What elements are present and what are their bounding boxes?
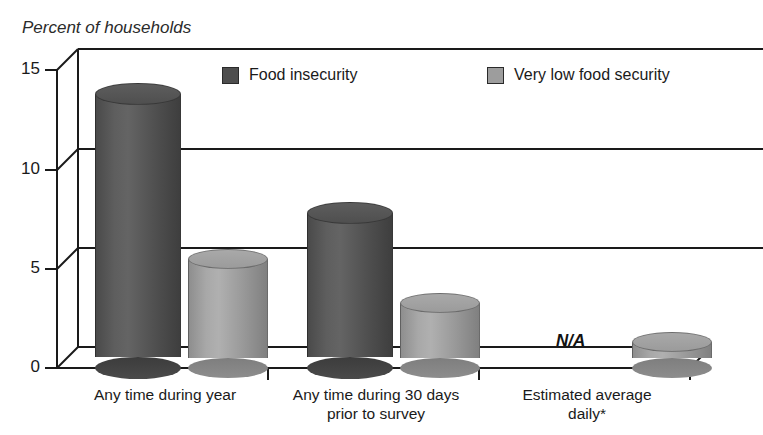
- plot-area: 15 10 5 0 N/A: [0, 0, 763, 435]
- bar-base: [632, 358, 712, 378]
- x-category-label-2-line1: Any time during 30 days: [272, 385, 480, 404]
- bar-base: [400, 358, 480, 378]
- bar-very-low-30-days: [400, 293, 480, 368]
- x-category-label-3: Estimated average daily*: [483, 385, 691, 424]
- x-category-label-3-line1: Estimated average: [483, 385, 691, 404]
- legend-item-food-insecurity: Food insecurity: [222, 66, 358, 84]
- x-category-label-1: Any time during year: [60, 385, 270, 404]
- chart-root: Percent of households: [0, 0, 763, 435]
- x-category-label-2-line2: prior to survey: [272, 404, 480, 423]
- y-tick-15: 15: [6, 59, 40, 79]
- bar-cap: [400, 293, 480, 313]
- y-tick-0: 0: [6, 357, 40, 377]
- x-category-label-2: Any time during 30 days prior to survey: [272, 385, 480, 424]
- bar-base: [95, 357, 181, 379]
- bar-cap: [307, 202, 393, 224]
- bar-base: [188, 358, 268, 378]
- bar-food-insecurity-any-time-year: [95, 83, 181, 368]
- bar-body: [307, 213, 393, 357]
- bar-very-low-estimated-daily: [632, 332, 712, 368]
- bar-cap: [632, 332, 712, 352]
- legend-item-very-low-food-security: Very low food security: [487, 66, 670, 84]
- bar-very-low-any-time-year: [188, 249, 268, 368]
- na-annotation: N/A: [556, 331, 585, 351]
- bar-body: [188, 259, 268, 358]
- bar-food-insecurity-30-days: [307, 202, 393, 368]
- bar-cap: [95, 83, 181, 105]
- x-category-label-3-line2: daily*: [483, 404, 691, 423]
- y-tick-10: 10: [6, 159, 40, 179]
- bar-cap: [188, 249, 268, 269]
- bar-base: [307, 357, 393, 379]
- legend-swatch-icon: [487, 67, 504, 84]
- x-category-label-1-line1: Any time during year: [60, 385, 270, 404]
- bar-body: [95, 94, 181, 357]
- legend-label: Food insecurity: [249, 66, 358, 84]
- legend-swatch-icon: [222, 67, 239, 84]
- y-tick-5: 5: [6, 258, 40, 278]
- legend-label: Very low food security: [514, 66, 670, 84]
